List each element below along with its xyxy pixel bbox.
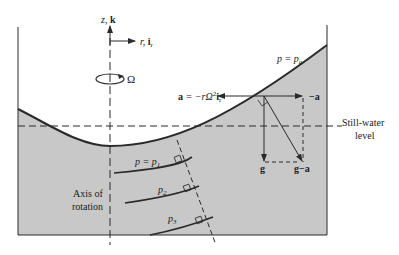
r-axis-label: r, ir — [140, 36, 154, 49]
fluid-region — [18, 45, 327, 235]
axis-of-rotation-label-2: rotation — [72, 201, 103, 212]
g-label: g — [260, 163, 265, 174]
still-water-label-2: level — [355, 130, 375, 141]
rotating-fluid-diagram: z, k r, ir Ω p = pa a = −rΩ2ir −a g g−a … — [0, 0, 399, 255]
surface-pressure-label: p = pa — [276, 53, 303, 66]
omega-label: Ω — [127, 73, 135, 85]
z-axis-label: z, k — [100, 14, 116, 25]
accel-label: a = −rΩ2ir — [178, 90, 222, 104]
still-water-label: Still-water — [342, 117, 385, 128]
axis-of-rotation-label: Axis of — [73, 188, 103, 199]
neg-a-label: −a — [309, 91, 320, 102]
g-minus-a-label: g−a — [294, 163, 310, 174]
